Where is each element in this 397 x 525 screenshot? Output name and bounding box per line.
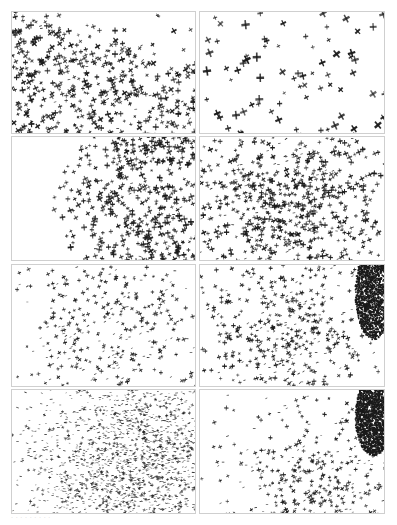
flock-image	[12, 390, 196, 514]
flock-image	[200, 390, 385, 514]
flock-photo-a	[11, 11, 196, 134]
flock-image	[200, 265, 385, 387]
flock-image	[200, 12, 385, 134]
flock-photo-h	[199, 389, 385, 514]
flock-photo-c	[11, 136, 196, 261]
flock-image	[12, 265, 196, 387]
flock-image	[12, 12, 196, 134]
flock-image	[12, 137, 196, 261]
flock-photo-d	[199, 136, 385, 261]
flock-photo-f	[199, 264, 385, 387]
flock-photo-b	[199, 11, 385, 134]
flock-photo-e	[11, 264, 196, 387]
flock-photo-g	[11, 389, 196, 514]
flock-image	[200, 137, 385, 261]
figure-caption: · · · · · · · · ·	[11, 514, 51, 520]
